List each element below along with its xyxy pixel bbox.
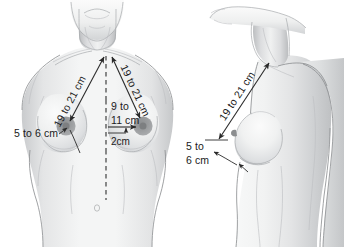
lateral-label-nipple-to-fold-line1: 5 to — [186, 140, 204, 152]
frontal-torso-silhouette — [22, 46, 173, 247]
frontal-nipple-right — [140, 123, 147, 130]
lateral-label-nipple-to-fold-line2: 6 cm — [186, 154, 209, 166]
medical-illustration-breast-measurements: 19 to 21 cm 19 to 21 cm 9 to 11 cm 2cm 5… — [0, 0, 344, 247]
frontal-label-midline-to-nipple-line1: 9 to — [111, 100, 129, 112]
frontal-label-areola-offset: 2cm — [111, 136, 130, 147]
frontal-label-nipple-to-fold: 5 to 6 cm — [14, 127, 58, 139]
illustration-canvas: 19 to 21 cm 19 to 21 cm 9 to 11 cm 2cm 5… — [0, 0, 344, 247]
frontal-label-midline-to-nipple-line2: 11 cm — [111, 114, 139, 126]
